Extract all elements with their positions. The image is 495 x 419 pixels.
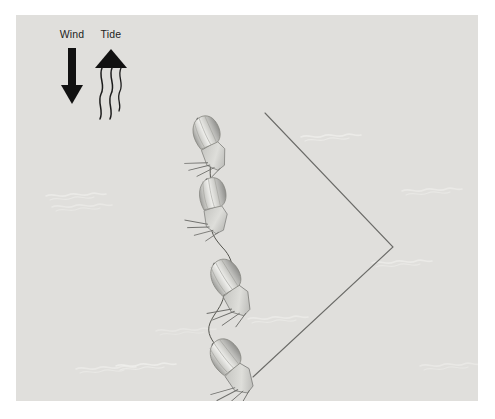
tide-label: Tide xyxy=(101,28,122,40)
diagram-panel: Wind Tide xyxy=(16,15,478,401)
sailing-diagram-svg: Wind Tide xyxy=(16,15,478,401)
figure-root: Wind Tide xyxy=(0,0,495,419)
wind-label: Wind xyxy=(60,28,85,40)
